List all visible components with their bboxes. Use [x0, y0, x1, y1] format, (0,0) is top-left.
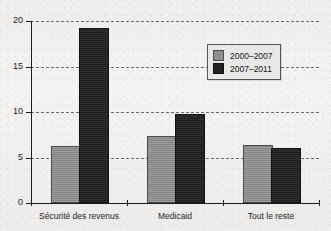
y-axis-tick-label: 0 [1, 197, 23, 207]
x-axis-category-label: Tout le reste [201, 211, 331, 221]
y-axis-tick-label: 20 [1, 15, 23, 25]
bar [175, 114, 205, 203]
bar [79, 28, 109, 203]
legend-item: 2000–2007 [213, 49, 273, 62]
y-axis-tick-label: 5 [1, 152, 23, 162]
legend-label: 2000–2007 [230, 51, 273, 61]
legend-label: 2007–2011 [230, 64, 272, 74]
bar [51, 146, 81, 204]
legend-item: 2007–2011 [213, 62, 273, 75]
x-axis-line [31, 203, 319, 204]
x-axis-tick [319, 200, 320, 206]
y-axis-tick-label: 15 [1, 61, 23, 71]
y-axis-tick-label: 10 [1, 106, 23, 116]
bar [243, 145, 273, 203]
dark-swatch-icon [213, 63, 224, 74]
bar-chart: 05101520 Sécurité des revenusMedicaidTou… [0, 0, 331, 231]
chart-legend: 2000–2007 2007–2011 [207, 44, 281, 80]
gray-swatch-icon [213, 50, 224, 61]
bar [147, 136, 177, 203]
bar [271, 148, 301, 203]
